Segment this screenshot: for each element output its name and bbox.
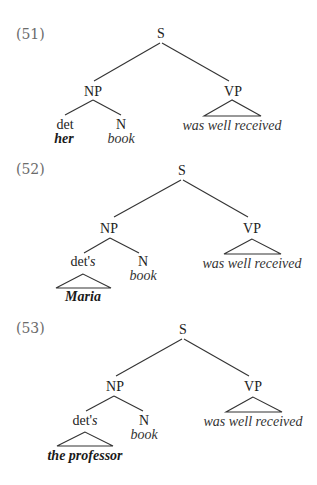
node-n: N [138,254,148,269]
edge-np-n [110,238,139,253]
edge-np-det [65,100,93,115]
node-vp: VP [224,84,242,99]
node-np: NP [106,379,124,394]
edge-s-np [114,180,181,217]
tree-52: (52) S NP VP det's Maria N book was well… [16,161,302,304]
node-det: det's [72,413,98,428]
det-word: her [54,131,74,146]
det-triangle [57,432,113,446]
example-number: (51) [16,26,45,42]
det-word: Maria [64,289,101,304]
edge-s-np [94,43,160,81]
vp-words: was well received [202,256,302,271]
node-n: N [116,117,126,132]
edge-np-det [84,238,110,253]
edge-s-np [116,339,182,376]
det-word: the professor [47,448,123,463]
vp-triangle [224,239,281,254]
syntax-trees-diagram: (51) S NP VP det her N book was well rec… [0,0,317,485]
node-vp: VP [244,379,262,394]
node-n: N [139,413,149,428]
tree-51: (51) S NP VP det her N book was well rec… [16,26,282,146]
example-number: (52) [16,161,45,177]
node-s: S [157,26,165,41]
n-word: book [107,131,135,146]
node-vp: VP [243,221,261,236]
node-np: NP [100,221,118,236]
node-det: det's [70,254,96,269]
node-s: S [179,322,187,337]
vp-triangle [204,100,261,116]
example-number: (53) [16,320,45,336]
edge-s-vp [162,43,229,81]
node-np: NP [84,84,102,99]
n-word: book [130,427,158,442]
edge-np-n [114,396,143,411]
vp-triangle [226,397,282,412]
edge-s-vp [184,339,249,376]
edge-np-n [93,100,121,115]
tree-53: (53) S NP VP det's the professor N book … [16,320,303,463]
n-word: book [129,268,157,283]
edge-s-vp [183,180,248,217]
edge-np-det [86,396,114,411]
node-det: det [56,117,73,132]
vp-words: was well received [182,118,282,133]
vp-words: was well received [203,414,303,429]
det-triangle [56,274,111,288]
node-s: S [178,163,186,178]
